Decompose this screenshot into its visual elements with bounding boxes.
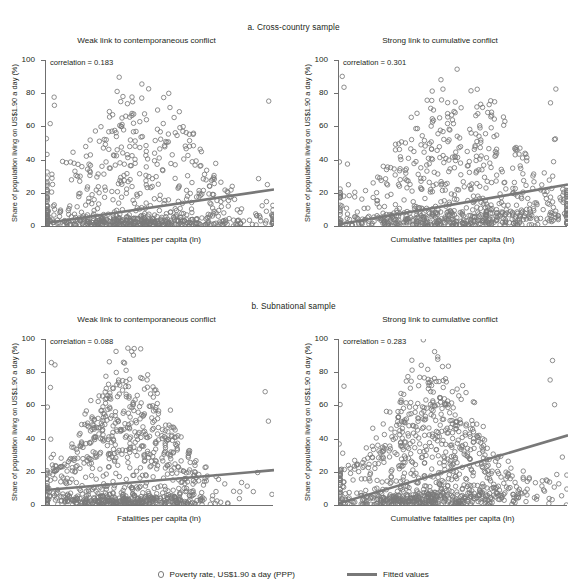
y-axis-label: Share of population living on US$1.90 a … (303, 339, 312, 505)
y-axis-tick-label: 100 (304, 334, 328, 343)
y-axis-tick-label: 60 (11, 121, 35, 130)
y-axis-label: Share of population living on US$1.90 a … (303, 60, 312, 226)
x-axis-label: Cumulative fatalities per capita (ln) (338, 235, 567, 244)
y-axis-tick-label: 60 (304, 400, 328, 409)
solid-line-swatch-icon (347, 573, 377, 576)
y-axis-tick-label: 40 (11, 155, 35, 164)
panel-title: Weak link to contemporaneous conflict (0, 315, 293, 324)
x-axis-line (45, 505, 273, 506)
x-axis-line (338, 505, 567, 506)
legend-item-poverty-rate: Poverty rate, US$1.90 a day (PPP) (158, 570, 295, 579)
y-axis-tick-label: 40 (11, 434, 35, 443)
correlation-annotation: correlation = 0.283 (343, 337, 406, 346)
panel-title: Strong link to cumulative conflict (293, 36, 587, 45)
y-axis-tick-label: 20 (304, 467, 328, 476)
legend-item-fitted-values: Fitted values (347, 570, 429, 579)
scatter-plot-area (339, 339, 568, 505)
y-axis-tick-label: 0 (11, 500, 35, 509)
y-axis-tick-label: 80 (11, 367, 35, 376)
panel-cross-country-weak-link: Weak link to contemporaneous conflictSha… (0, 36, 293, 268)
x-axis-label: Fatalities per capita (ln) (45, 235, 273, 244)
correlation-annotation: correlation = 0.183 (50, 58, 113, 67)
legend-label-fitted-values: Fitted values (383, 570, 429, 579)
data-point-group (339, 67, 568, 226)
scatter-plot-area (339, 60, 568, 226)
y-axis-tick-label: 40 (304, 434, 328, 443)
group-title-b: b. Subnational sample (0, 301, 587, 311)
data-point-group (339, 339, 568, 505)
y-axis-tick-label: 80 (304, 367, 328, 376)
panel-title: Strong link to cumulative conflict (293, 315, 587, 324)
panel-title: Weak link to contemporaneous conflict (0, 36, 293, 45)
open-circle-marker-icon (158, 571, 164, 577)
y-axis-tick-label: 20 (11, 188, 35, 197)
conflict-poverty-scatter-figure: a. Cross-country sample b. Subnational s… (0, 0, 587, 583)
y-axis-label: Share of population living on US$1.90 a … (10, 339, 19, 505)
y-axis-tick-label: 100 (11, 55, 35, 64)
y-axis-tick-label: 0 (11, 221, 35, 230)
y-axis-tick-label: 0 (304, 221, 328, 230)
x-axis-line (45, 226, 273, 227)
scatter-plot-area (46, 339, 274, 505)
x-axis-label: Cumulative fatalities per capita (ln) (338, 514, 567, 523)
y-axis-tick-label: 60 (304, 121, 328, 130)
y-axis-tick-label: 20 (304, 188, 328, 197)
panel-subnational-weak-link: Weak link to contemporaneous conflictSha… (0, 315, 293, 547)
y-axis-tick-label: 80 (304, 88, 328, 97)
correlation-annotation: correlation = 0.301 (343, 58, 406, 67)
legend-label-poverty-rate: Poverty rate, US$1.90 a day (PPP) (169, 570, 295, 579)
y-axis-label: Share of population living on US$1.90 a … (10, 60, 19, 226)
panel-cross-country-strong-link: Strong link to cumulative conflictShare … (293, 36, 587, 268)
group-title-a: a. Cross-country sample (0, 22, 587, 32)
x-axis-line (338, 226, 567, 227)
correlation-annotation: correlation = 0.088 (50, 337, 113, 346)
y-axis-tick-label: 80 (11, 88, 35, 97)
x-axis-label: Fatalities per capita (ln) (45, 514, 273, 523)
y-axis-tick-label: 100 (11, 334, 35, 343)
scatter-plot-area (46, 60, 274, 226)
panel-subnational-strong-link: Strong link to cumulative conflictShare … (293, 315, 587, 547)
y-axis-tick-label: 100 (304, 55, 328, 64)
y-axis-tick-label: 40 (304, 155, 328, 164)
figure-legend: Poverty rate, US$1.90 a day (PPP) Fitted… (0, 570, 587, 579)
y-axis-tick-label: 20 (11, 467, 35, 476)
y-axis-tick-label: 0 (304, 500, 328, 509)
data-point-group (46, 75, 274, 226)
y-axis-tick-label: 60 (11, 400, 35, 409)
